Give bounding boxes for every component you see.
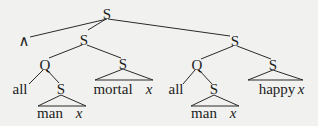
- edge-left-s-pred: [87, 45, 121, 58]
- edge-left-s-q: [49, 45, 82, 58]
- node-left-pred-s: S: [119, 56, 127, 72]
- node-right-s: S: [231, 33, 239, 49]
- edge-root-conj: [30, 19, 107, 37]
- leaf-left-pred-var: x: [145, 81, 153, 97]
- node-right-all: all: [169, 81, 184, 97]
- leaf-right-restr-word: man: [191, 105, 217, 121]
- node-left-all: all: [13, 81, 28, 97]
- edge-right-s-q: [201, 46, 233, 59]
- node-left-restr-s: S: [57, 81, 65, 97]
- node-left-s: S: [80, 32, 88, 48]
- node-root-s: S: [103, 6, 111, 22]
- leaf-right-pred-word: happy: [259, 81, 296, 97]
- node-left-q: Q: [40, 57, 51, 73]
- node-conjunction: ∧: [19, 33, 30, 49]
- leaf-right-restr-var: x: [229, 105, 237, 121]
- leaf-right-pred-var: x: [297, 81, 305, 97]
- edge-right-s-pred: [237, 46, 271, 59]
- node-right-restr-s: S: [210, 81, 218, 97]
- edge-root-right-s: [108, 19, 230, 36]
- syntax-tree-diagram: S ∧ S S Q S Q S all S all S mortal x hap…: [0, 0, 318, 126]
- node-right-q: Q: [192, 57, 203, 73]
- leaf-left-pred-word: mortal: [93, 81, 132, 97]
- leaf-left-restr-word: man: [37, 105, 63, 121]
- leaf-left-restr-var: x: [75, 105, 83, 121]
- node-right-pred-s: S: [269, 57, 277, 73]
